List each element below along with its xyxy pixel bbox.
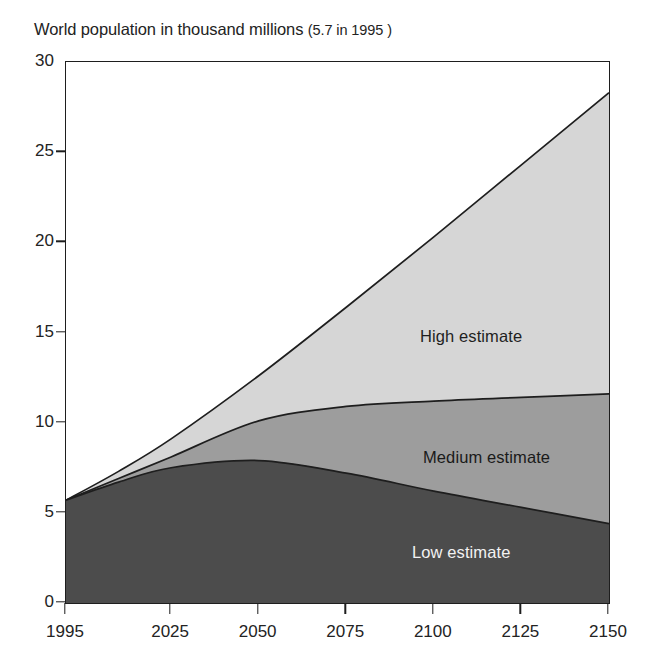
x-tick-mark (345, 603, 346, 614)
chart-page: World population in thousand millions (5… (0, 0, 660, 672)
x-tick-label: 1995 (46, 622, 84, 642)
y-tick-label: 5 (8, 502, 54, 522)
y-tick-label: 0 (8, 592, 54, 612)
x-tick-mark (607, 603, 608, 614)
high-estimate-label: High estimate (420, 327, 522, 346)
x-tick-label: 2075 (326, 622, 364, 642)
y-tick-mark (56, 331, 65, 332)
x-tick-label: 2150 (589, 622, 627, 642)
y-tick-label: 25 (8, 141, 54, 161)
x-tick-mark (520, 603, 521, 614)
x-tick-mark (169, 603, 170, 614)
chart-title-main: World population in thousand millions (34, 20, 303, 38)
y-tick-mark (56, 421, 65, 422)
y-axis: 051015202530 (0, 0, 54, 672)
y-tick-label: 15 (8, 322, 54, 342)
chart-title-note: (5.7 in 1995 ) (308, 22, 392, 38)
x-tick-label: 2125 (501, 622, 539, 642)
low-estimate-label: Low estimate (412, 543, 510, 562)
x-tick-label: 2050 (239, 622, 277, 642)
medium-estimate-label: Medium estimate (423, 448, 550, 467)
y-tick-mark (56, 150, 65, 151)
chart-title: World population in thousand millions (5… (34, 20, 392, 39)
x-tick-mark (432, 603, 433, 614)
y-tick-mark (56, 241, 65, 242)
y-tick-label: 10 (8, 412, 54, 432)
x-tick-mark (64, 603, 65, 614)
x-tick-label: 2025 (151, 622, 189, 642)
y-tick-mark (56, 511, 65, 512)
x-tick-mark (257, 603, 258, 614)
y-tick-label: 20 (8, 231, 54, 251)
x-tick-label: 2100 (414, 622, 452, 642)
area-chart-svg (66, 62, 609, 603)
plot-area (65, 61, 610, 604)
y-tick-label: 30 (8, 51, 54, 71)
